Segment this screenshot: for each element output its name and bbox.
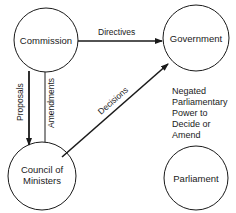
directives-label: Directives bbox=[98, 27, 135, 37]
commission-node: Commission bbox=[14, 8, 78, 72]
proposals-edge: Proposals bbox=[15, 71, 29, 145]
commission-label: Commission bbox=[20, 35, 72, 46]
note-line-1: Negated bbox=[172, 86, 206, 96]
government-label: Government bbox=[170, 33, 223, 44]
decisions-arrow-icon bbox=[62, 64, 168, 157]
directives-edge: Directives bbox=[78, 27, 162, 41]
eu-decision-diagram: Commission Government Council of Ministe… bbox=[0, 0, 236, 213]
negated-power-note: Negated Parliamentary Power to Decide or… bbox=[172, 86, 228, 140]
note-line-3: Power to bbox=[172, 108, 208, 118]
parliament-label: Parliament bbox=[173, 173, 219, 184]
proposals-label: Proposals bbox=[15, 83, 25, 121]
government-node: Government bbox=[163, 5, 229, 71]
note-line-5: Amend bbox=[172, 130, 201, 140]
parliament-node: Parliament bbox=[164, 146, 228, 210]
note-line-2: Parliamentary bbox=[172, 97, 228, 107]
amendments-edge: Amendments bbox=[45, 72, 56, 142]
decisions-edge: Decisions bbox=[62, 64, 168, 157]
amendments-label: Amendments bbox=[46, 78, 56, 128]
note-line-4: Decide or bbox=[172, 119, 211, 129]
council-node: Council of Ministers bbox=[8, 142, 76, 210]
council-label-line2: Ministers bbox=[23, 175, 61, 186]
council-label-line1: Council of bbox=[21, 164, 64, 175]
